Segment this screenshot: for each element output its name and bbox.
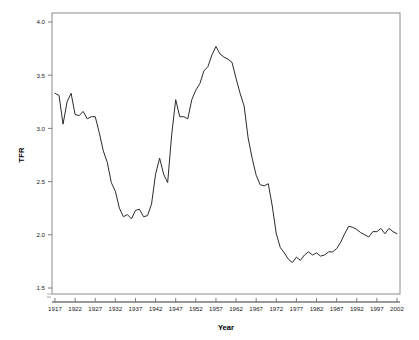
- tfr-line-chart: 4.03.53.02.52.01.5 191719221927193219371…: [0, 0, 419, 340]
- y-tick-label: 3.0: [36, 125, 45, 132]
- x-tick-label: 1952: [189, 305, 203, 312]
- chart-background: [0, 0, 419, 340]
- y-tick-label: 2.0: [36, 231, 45, 238]
- x-tick-label: 2002: [390, 305, 404, 312]
- x-tick-label: 1937: [129, 305, 143, 312]
- y-tick-label: 2.5: [36, 178, 45, 185]
- x-tick-label: 1992: [350, 305, 364, 312]
- x-tick-label: 1967: [249, 305, 263, 312]
- x-tick-label: 1922: [68, 305, 82, 312]
- x-tick-label: 1932: [108, 305, 122, 312]
- x-tick-label: 1972: [269, 305, 283, 312]
- x-tick-label: 1942: [149, 305, 163, 312]
- y-tick-label: 4.0: [36, 18, 45, 25]
- y-tick-label: 3.5: [36, 72, 45, 79]
- y-axis-title: TFR: [17, 147, 26, 162]
- x-tick-label: 1987: [330, 305, 344, 312]
- y-tick-label: 1.5: [36, 284, 45, 291]
- x-tick-label: 1962: [229, 305, 243, 312]
- x-tick-label: 1947: [169, 305, 183, 312]
- x-tick-label: 1957: [209, 305, 223, 312]
- x-tick-label: 1977: [290, 305, 304, 312]
- x-tick-label: 1927: [88, 305, 102, 312]
- x-tick-label: 1982: [310, 305, 324, 312]
- x-tick-label: 1917: [48, 305, 62, 312]
- x-tick-label: 1997: [370, 305, 384, 312]
- x-axis-title: Year: [218, 323, 234, 332]
- chart-canvas: 4.03.53.02.52.01.5 191719221927193219371…: [0, 0, 419, 340]
